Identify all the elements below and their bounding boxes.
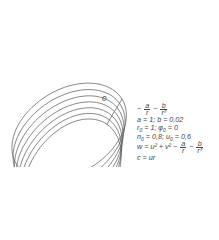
orbit-trajectory xyxy=(12,83,127,167)
initial-conditions-line-2: n0 = 0,8; u0 = 0,6 xyxy=(137,133,204,141)
origin-label: 0 xyxy=(102,94,106,103)
denominator: r xyxy=(180,148,186,154)
denominator: r³ xyxy=(196,148,203,154)
formula-block: − ar − br³ a = 1; b = 0,02 r0 = 1; φ0 = … xyxy=(137,103,204,163)
energy-lhs: w = u² + v² − xyxy=(137,143,177,152)
fraction-b-over-r3: br³ xyxy=(196,141,203,154)
fraction-a-over-r: ar xyxy=(180,141,186,154)
angular-momentum-line: c = ur xyxy=(137,154,204,162)
minus-sign: − xyxy=(137,104,141,113)
minus-sign: − xyxy=(153,104,157,113)
minus-sign: − xyxy=(189,143,193,152)
var: = 0,8; u xyxy=(144,132,170,141)
